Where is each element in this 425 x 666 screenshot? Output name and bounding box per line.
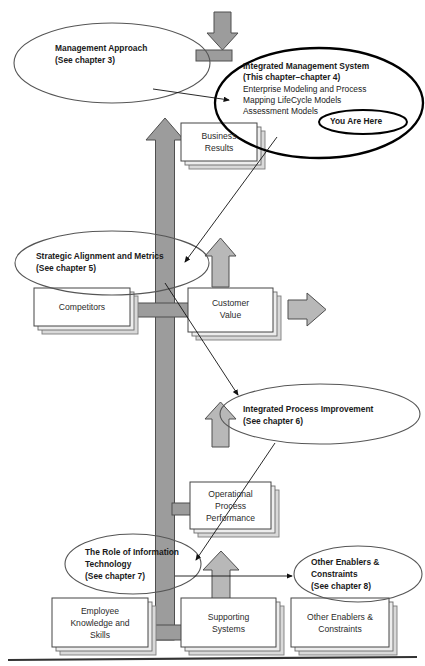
ellipse-integrated-management-system-line-2: (This chapter–chapter 4) — [243, 73, 340, 83]
box-operational-process-performance-line-1: Operational — [190, 489, 271, 499]
ellipse-other-enablers-line-3: (See chapter 8) — [311, 582, 371, 592]
ellipse-integrated-management-system-line-1: Integrated Management System — [243, 62, 369, 72]
ellipse-strategic-alignment-line-2: (See chapter 5) — [36, 264, 96, 274]
ellipse-integrated-process-improvement-line-2: (See chapter 6) — [243, 417, 303, 427]
ellipse-integrated-management-system-line-5: Assessment Models — [243, 107, 318, 117]
arrow-strategic-up — [205, 238, 236, 287]
ellipse-integrated-management-system-line-4: Mapping LifeCycle Models — [243, 96, 341, 106]
arrow-top-stem — [207, 12, 238, 50]
arrow-customer-value-right — [288, 293, 326, 326]
ellipse-management-approach-line-2: (See chapter 3) — [55, 56, 115, 66]
ellipse-other-enablers-line-1: Other Enablers & — [311, 558, 379, 568]
ellipse-other-enablers-line-2: Constraints — [311, 570, 358, 580]
box-business-results-line-2: Results — [181, 143, 257, 153]
box-employee-knowledge-line-3: Skills — [52, 630, 148, 640]
ellipse-role-of-it-line-1: The Role of Information — [85, 548, 179, 558]
ellipse-integrated-management-system-line-3: Enterprise Modeling and Process — [243, 85, 366, 95]
box-customer-value-line-1: Customer — [188, 298, 273, 308]
ellipse-role-of-it-line-3: (See chapter 7) — [85, 572, 145, 582]
main-trunk-arrow — [146, 118, 184, 640]
box-other-enablers-line-2: Constraints — [291, 624, 389, 634]
box-other-enablers-line-1: Other Enablers & — [291, 612, 389, 622]
you-are-here-badge: You Are Here — [330, 117, 382, 127]
ellipse-management-approach-line-1: Management Approach — [55, 44, 147, 54]
box-business-results-line-1: Business — [181, 131, 257, 141]
ellipse-strategic-alignment-line-1: Strategic Alignment and Metrics — [36, 252, 164, 262]
ellipse-role-of-it-line-2: Technology — [85, 560, 131, 570]
diagram-canvas: Management Approach (See chapter 3) Inte… — [0, 0, 425, 666]
arrow-process-improvement-up — [205, 402, 236, 447]
ellipse-integrated-process-improvement-line-1: Integrated Process Improvement — [243, 405, 373, 415]
box-employee-knowledge-line-1: Employee — [52, 606, 148, 616]
box-operational-process-performance-line-3: Performance — [190, 513, 271, 523]
box-customer-value-line-2: Value — [188, 310, 273, 320]
box-employee-knowledge-line-2: Knowledge and — [52, 618, 148, 628]
box-competitors-line-1: Competitors — [34, 302, 130, 312]
box-supporting-systems-line-1: Supporting — [181, 612, 276, 622]
box-supporting-systems-line-2: Systems — [181, 624, 276, 634]
box-operational-process-performance-line-2: Process — [190, 501, 271, 511]
ground-line — [8, 657, 417, 660]
branch-top-horizontal — [196, 50, 232, 61]
